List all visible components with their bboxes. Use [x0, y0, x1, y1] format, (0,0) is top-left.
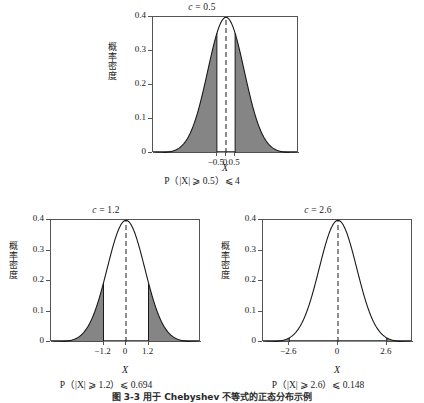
- y-tick-label-top-3: 0.3: [112, 44, 146, 54]
- chart-caption-bottom-left: P（|X| ⩾ 1.2）⩽ 0.694: [6, 377, 206, 391]
- y-tick-mark-top-1: [148, 118, 152, 119]
- x-axis-label-bottom-left: X: [50, 364, 200, 375]
- plot-area-bottom-right: [262, 219, 412, 341]
- chart-caption-bottom-right: P（|X| ⩾ 2.6）⩽ 0.148: [218, 377, 418, 391]
- y-tick-label-top-4: 0.4: [112, 10, 146, 20]
- y-tick-label-bottom-left-3: 0.3: [10, 244, 44, 254]
- y-tick-mark-top-3: [148, 50, 152, 51]
- y-tick-label-bottom-left-0: 0: [10, 335, 44, 345]
- c-value-bottom-right: 2.6: [319, 205, 331, 215]
- y-tick-label-top-2: 0.2: [112, 78, 146, 88]
- c-value-top: 0.5: [203, 2, 215, 12]
- y-tick-label-bottom-right-4: 0.4: [222, 213, 256, 223]
- c-equals-bottom-right: =: [309, 205, 320, 215]
- x-tick-mark-top-0: [216, 152, 217, 156]
- x-tick-mark-bottom-left-2: [148, 341, 149, 345]
- y-tick-mark-top-4: [148, 16, 152, 17]
- shaded-tail-right-top: [235, 33, 299, 153]
- y-tick-label-bottom-left-1: 0.1: [10, 305, 44, 315]
- y-tick-mark-top-0: [148, 152, 152, 153]
- plot-area-bottom-left: [50, 219, 200, 341]
- chart-caption-top: P（|X| ⩾ 0.5）⩽ 4: [104, 173, 300, 187]
- x-tick-mark-bottom-right-0: [288, 341, 289, 345]
- y-tick-mark-bottom-left-2: [46, 280, 50, 281]
- x-tick-label-bottom-left-2: 1.2: [126, 346, 170, 356]
- y-tick-mark-bottom-right-1: [258, 311, 262, 312]
- y-tick-mark-bottom-right-3: [258, 250, 262, 251]
- x-tick-mark-bottom-left-0: [103, 341, 104, 345]
- y-tick-mark-bottom-left-4: [46, 219, 50, 220]
- x-tick-mark-top-2: [234, 152, 235, 156]
- x-tick-label-top-2: 0.5: [212, 157, 256, 167]
- y-tick-label-top-1: 0.1: [112, 112, 146, 122]
- y-tick-mark-bottom-left-1: [46, 311, 50, 312]
- y-tick-label-bottom-right-2: 0.2: [222, 274, 256, 284]
- y-tick-mark-bottom-left-0: [46, 341, 50, 342]
- y-tick-label-bottom-right-0: 0: [222, 335, 256, 345]
- x-tick-label-bottom-right-2: 2.6: [364, 346, 408, 356]
- plot-area-top: [152, 16, 298, 152]
- y-tick-label-bottom-left-2: 0.2: [10, 274, 44, 284]
- y-tick-mark-bottom-right-2: [258, 280, 262, 281]
- c-equals-top: =: [193, 2, 204, 12]
- x-tick-mark-bottom-right-1: [337, 341, 338, 345]
- normal-curve-svg-bottom-left: [51, 220, 201, 342]
- normal-curve-svg-top: [153, 17, 299, 153]
- y-tick-mark-top-2: [148, 84, 152, 85]
- chart-panel-bottom-left: c = 1.2 概率密度 X P（|X| ⩾ 1.2）⩽ 0.694 00.10…: [6, 205, 206, 395]
- shaded-tail-left-top: [153, 33, 217, 153]
- c-value-bottom-left: 1.2: [107, 205, 119, 215]
- x-tick-mark-top-1: [225, 152, 226, 156]
- c-equals-bottom-left: =: [97, 205, 108, 215]
- y-tick-mark-bottom-right-4: [258, 219, 262, 220]
- shaded-tail-left-bottom-left: [51, 283, 104, 342]
- y-tick-mark-bottom-left-3: [46, 250, 50, 251]
- x-tick-label-bottom-right-1: 0: [315, 346, 359, 356]
- x-tick-label-bottom-right-0: −2.6: [266, 346, 310, 356]
- x-axis-label-bottom-right: X: [262, 364, 412, 375]
- y-tick-label-top-0: 0: [112, 146, 146, 156]
- shaded-tail-right-bottom-left: [149, 283, 202, 342]
- x-tick-mark-bottom-left-1: [125, 341, 126, 345]
- x-tick-mark-bottom-right-2: [386, 341, 387, 345]
- chart-panel-bottom-right: c = 2.6 概率密度 X P（|X| ⩾ 2.6）⩽ 0.148 00.10…: [218, 205, 418, 395]
- y-tick-mark-bottom-right-0: [258, 341, 262, 342]
- chart-panel-top: c = 0.5 概率密度 X P（|X| ⩾ 0.5）⩽ 4 00.10.20.…: [104, 2, 300, 184]
- normal-curve-svg-bottom-right: [263, 220, 413, 342]
- figure-caption: 图 3-3 用于 Chebyshev 不等式的正态分布示例: [0, 390, 424, 403]
- y-tick-label-bottom-right-1: 0.1: [222, 305, 256, 315]
- y-tick-label-bottom-left-4: 0.4: [10, 213, 44, 223]
- y-tick-label-bottom-right-3: 0.3: [222, 244, 256, 254]
